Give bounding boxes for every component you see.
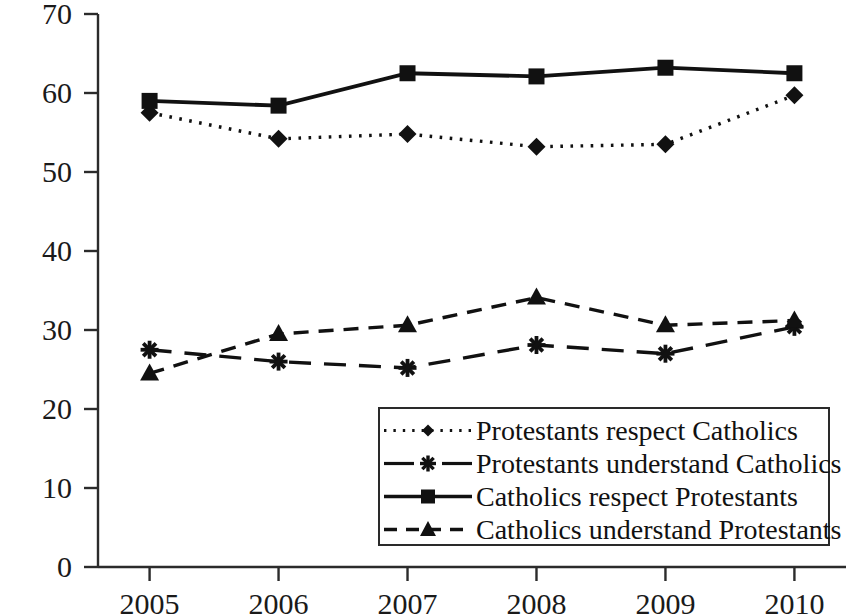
y-axis-tick-label: 60 xyxy=(0,78,72,108)
data-point-star xyxy=(527,336,545,354)
legend-item: Protestants understand Catholics xyxy=(380,447,828,480)
legend-item: Catholics respect Protestants xyxy=(380,480,828,513)
data-point-square xyxy=(786,65,802,81)
series-catholics-understand-protestants xyxy=(140,288,804,381)
data-point-star xyxy=(270,353,288,371)
series-protestants-respect-catholics xyxy=(141,86,804,155)
y-axis-tick-label: 70 xyxy=(0,0,72,29)
x-axis-tick-label: 2006 xyxy=(249,589,309,614)
legend-label: Catholics respect Protestants xyxy=(476,483,798,511)
legend-swatch-dashed-triangle xyxy=(380,513,476,546)
data-point-star xyxy=(656,345,674,363)
data-point-triangle xyxy=(269,324,288,341)
x-axis-tick-label: 2007 xyxy=(378,589,438,614)
series-protestants-understand-catholics xyxy=(141,318,804,377)
data-point-diamond xyxy=(270,130,288,148)
legend-swatch-dotted-diamond xyxy=(380,414,476,447)
data-point-triangle xyxy=(785,311,804,328)
chart-legend: Protestants respect Catholics Protestant… xyxy=(378,407,830,546)
data-point-diamond xyxy=(527,138,545,156)
y-axis-tick-label: 10 xyxy=(0,473,72,503)
series-line xyxy=(150,298,795,374)
x-axis-tick-label: 2005 xyxy=(120,589,180,614)
data-point-triangle xyxy=(527,288,546,305)
y-axis-tick-label: 30 xyxy=(0,315,72,345)
x-axis-tick-label: 2008 xyxy=(506,589,566,614)
chart-series-group xyxy=(140,60,804,381)
legend-label: Protestants respect Catholics xyxy=(476,417,798,445)
y-axis-tick-label: 20 xyxy=(0,394,72,424)
legend-item: Catholics understand Protestants xyxy=(380,513,828,546)
x-axis-tick-label: 2010 xyxy=(764,589,824,614)
series-catholics-respect-protestants xyxy=(142,60,803,114)
chart-figure: Per cent 010203040506070 200520062007200… xyxy=(0,0,846,614)
legend-swatch-dashed-star xyxy=(380,447,476,480)
x-axis-tick-label: 2009 xyxy=(635,589,695,614)
y-axis-tick-label: 50 xyxy=(0,157,72,187)
data-point-square xyxy=(528,68,544,84)
data-point-diamond xyxy=(399,125,417,143)
data-point-triangle xyxy=(398,315,417,332)
data-point-star xyxy=(141,341,159,359)
data-point-square xyxy=(657,60,673,76)
legend-label: Protestants understand Catholics xyxy=(476,450,842,478)
y-axis-tick-label: 0 xyxy=(0,552,72,582)
series-line xyxy=(150,68,795,106)
y-axis-ticks xyxy=(84,14,98,567)
legend-label: Catholics understand Protestants xyxy=(476,516,842,544)
y-axis-tick-label: 40 xyxy=(0,236,72,266)
data-point-star xyxy=(399,359,417,377)
data-point-square xyxy=(400,65,416,81)
data-point-diamond xyxy=(785,86,803,104)
data-point-square xyxy=(271,98,287,114)
data-point-square xyxy=(142,93,158,109)
legend-swatch-solid-square xyxy=(380,480,476,513)
series-line xyxy=(150,327,795,368)
data-point-diamond xyxy=(656,135,674,153)
x-axis-ticks xyxy=(150,567,795,581)
legend-item: Protestants respect Catholics xyxy=(380,414,828,447)
